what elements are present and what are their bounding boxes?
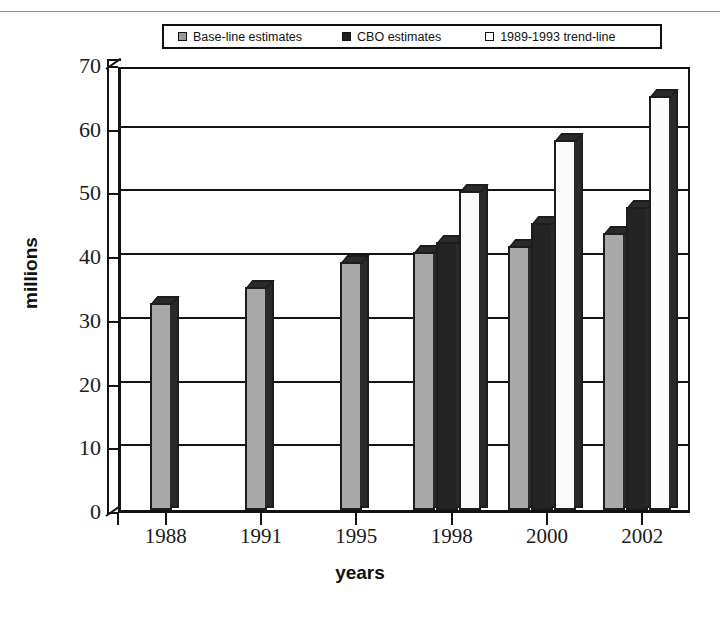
y-tick-label-10: 10 bbox=[55, 437, 101, 459]
legend-item-cbo-estimates: CBO estimates bbox=[342, 30, 441, 44]
y-tick-mark-20 bbox=[107, 385, 118, 387]
bar-cbo-1998 bbox=[436, 242, 458, 510]
bar-side-face bbox=[360, 255, 369, 508]
bar-cbo-2000 bbox=[531, 223, 553, 510]
legend-label-base-line: Base-line estimates bbox=[193, 30, 302, 44]
y-tick-label-20: 20 bbox=[55, 374, 101, 396]
y-tick-label-30: 30 bbox=[55, 310, 101, 332]
page-divider-rule bbox=[0, 11, 720, 12]
gridline-60 bbox=[121, 126, 688, 128]
gridline-50 bbox=[121, 189, 688, 191]
legend-item-base-line-estimates: Base-line estimates bbox=[178, 30, 302, 44]
bar-baseline-1988 bbox=[150, 303, 172, 510]
bar-baseline-2002 bbox=[603, 233, 625, 510]
x-tick-label-2002: 2002 bbox=[602, 524, 682, 549]
y-tick-mark-10 bbox=[107, 448, 118, 450]
bar-baseline-2000 bbox=[508, 246, 530, 510]
y-tick-mark-70 bbox=[107, 66, 118, 68]
y-tick-label-70: 70 bbox=[55, 55, 101, 77]
bar-side-face bbox=[479, 184, 488, 508]
bar-cbo-2002 bbox=[626, 207, 648, 510]
y-tick-label-60: 60 bbox=[55, 119, 101, 141]
x-tick-mark-origin bbox=[117, 513, 119, 525]
legend-label-cbo: CBO estimates bbox=[357, 30, 441, 44]
bar-trend-2000 bbox=[554, 140, 576, 510]
x-tick-label-1998: 1998 bbox=[412, 524, 492, 549]
bar-baseline-1995 bbox=[340, 262, 362, 510]
bar-side-face bbox=[669, 89, 678, 508]
baseline-swatch-icon bbox=[178, 32, 187, 41]
x-tick-label-1988: 1988 bbox=[126, 524, 206, 549]
y-tick-mark-60 bbox=[107, 130, 118, 132]
x-tick-label-2000: 2000 bbox=[507, 524, 587, 549]
y-axis-title: millions bbox=[20, 218, 42, 328]
bar-baseline-1991 bbox=[245, 287, 267, 510]
y-tick-mark-50 bbox=[107, 193, 118, 195]
trend-swatch-icon bbox=[485, 32, 494, 41]
x-tick-label-1991: 1991 bbox=[221, 524, 301, 549]
legend-item-trend-line: 1989-1993 trend-line bbox=[485, 30, 615, 44]
bar-side-face bbox=[170, 296, 179, 508]
bar-side-face bbox=[574, 133, 583, 508]
bar-trend-1998 bbox=[459, 191, 481, 510]
y-tick-label-40: 40 bbox=[55, 246, 101, 268]
bar-trend-2002 bbox=[649, 96, 671, 510]
x-tick-label-1995: 1995 bbox=[316, 524, 396, 549]
y-tick-label-50: 50 bbox=[55, 182, 101, 204]
x-axis-title: years bbox=[0, 562, 720, 584]
cbo-swatch-icon bbox=[342, 32, 351, 41]
chart-legend: Base-line estimates CBO estimates 1989-1… bbox=[162, 24, 662, 49]
bar-baseline-1998 bbox=[413, 252, 435, 510]
y-tick-mark-40 bbox=[107, 257, 118, 259]
y-tick-mark-30 bbox=[107, 321, 118, 323]
y-tick-label-0: 0 bbox=[55, 501, 101, 523]
plot-area bbox=[118, 67, 690, 513]
bar-side-face bbox=[265, 280, 274, 508]
legend-label-trend-line: 1989-1993 trend-line bbox=[500, 30, 615, 44]
